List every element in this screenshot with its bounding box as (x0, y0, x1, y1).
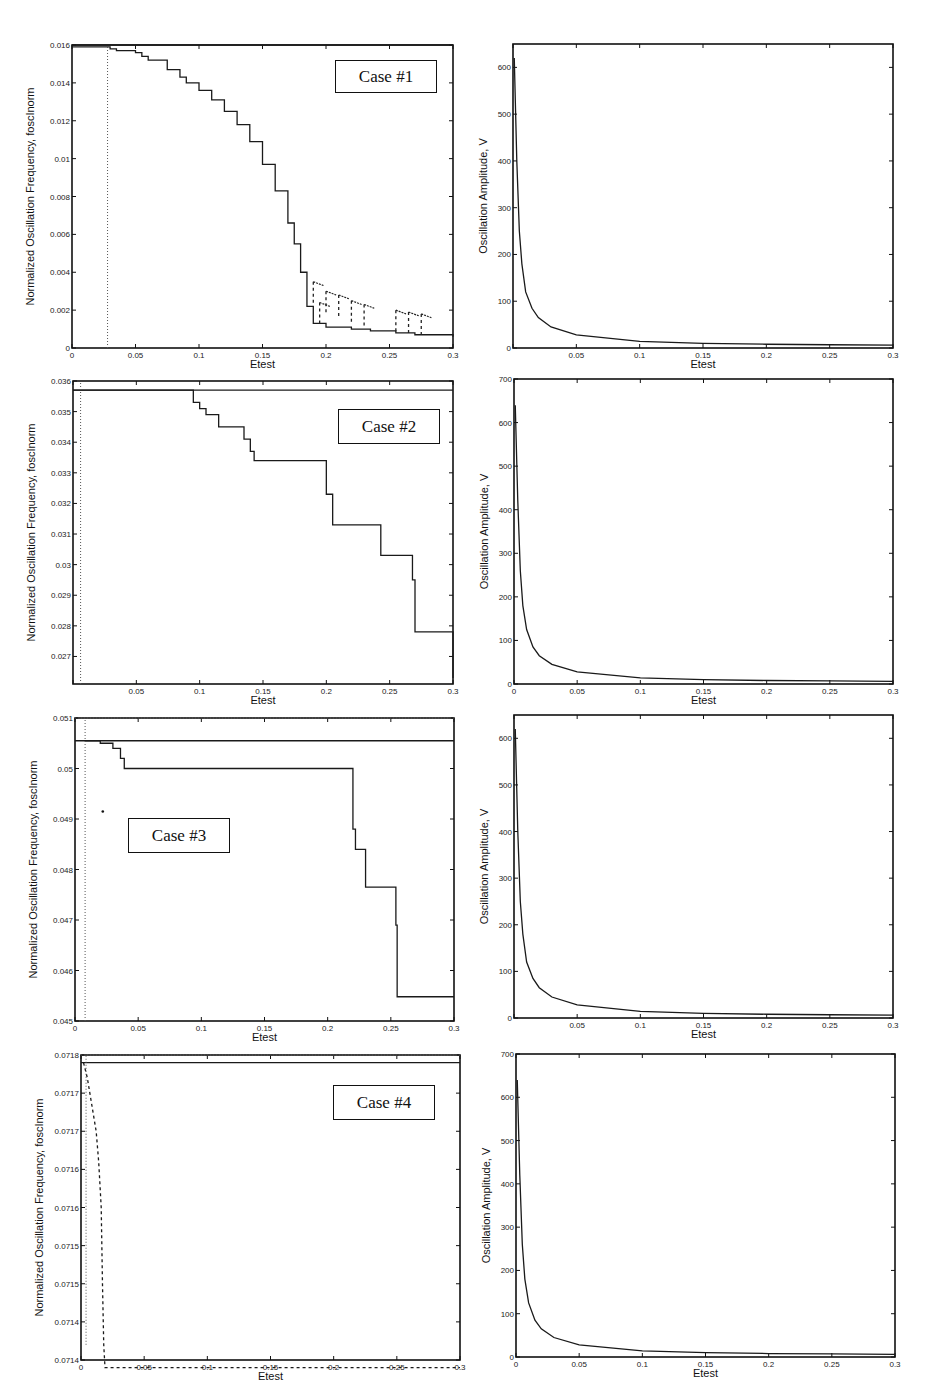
case-label-box: Case #3 (128, 818, 230, 853)
y-axis-label: Oscillation Amplitude, V (480, 1147, 492, 1263)
x-tick-label: 0.1 (637, 1360, 649, 1369)
y-tick-label: 400 (501, 1180, 515, 1189)
y-tick-label: 100 (501, 1310, 515, 1319)
x-axis-label: Etest (693, 1367, 718, 1379)
x-tick-label: 0.2 (763, 1360, 775, 1369)
y-tick-label: 600 (501, 1093, 515, 1102)
y-tick-label: 700 (501, 1050, 515, 1059)
plot-frame (516, 1054, 895, 1357)
y-tick-label: 0 (510, 1353, 515, 1362)
x-tick-label: 0.25 (824, 1360, 840, 1369)
chart-svg: 00.050.10.150.20.250.3010020030040050060… (0, 0, 929, 1395)
y-tick-label: 300 (501, 1223, 515, 1232)
case-label-box: Case #1 (335, 60, 437, 93)
x-tick-label: 0.3 (889, 1360, 901, 1369)
x-tick-label: 0 (514, 1360, 519, 1369)
case-label-box: Case #2 (338, 409, 440, 444)
y-tick-label: 500 (501, 1137, 515, 1146)
case-label-box: Case #4 (333, 1085, 435, 1120)
x-tick-label: 0.05 (571, 1360, 587, 1369)
y-tick-label: 200 (501, 1266, 515, 1275)
